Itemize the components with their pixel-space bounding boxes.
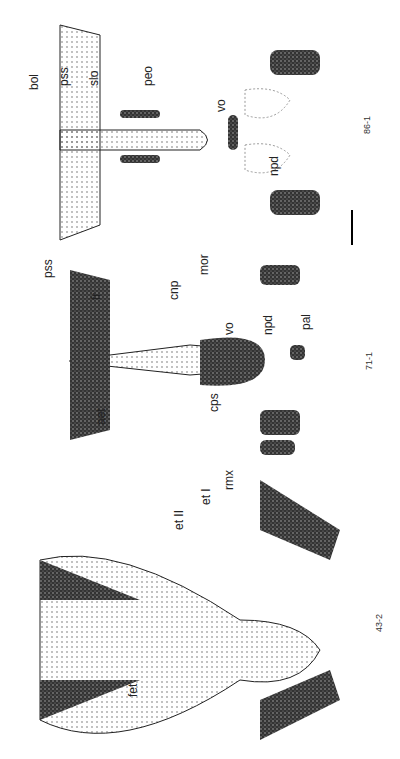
label-cps: cps [207,393,221,412]
label-cnp: cnp [167,280,181,300]
section-43-2: 43-2 [374,614,384,632]
anatomical-figure: bol pss slo peo vo npd 86-1 pss fr cnp m… [0,0,400,759]
section-71-1: 71-1 [364,352,374,370]
label-pal: pal [299,314,313,330]
panel-86-1 [60,25,352,245]
label-et-i: et I [199,488,213,505]
label-bol: bol [27,74,41,90]
label-fr: fr [89,293,103,300]
section-86-1: 86-1 [362,116,372,134]
label-npd: npd [267,156,281,176]
label-rmx: rmx [222,470,236,490]
label-mor: mor [197,254,211,275]
label-fet: fet [126,683,140,697]
panel-43-2 [40,480,340,740]
label-vo: vo [214,99,228,112]
label-slo: slo [87,70,101,86]
label-aet: aet [94,408,108,425]
label-pss: pss [41,259,55,278]
panel-71-1 [70,265,305,455]
label-peo: peo [141,66,155,86]
label-et-ii: et II [172,510,186,530]
label-npd: npd [261,315,275,335]
label-pss: pss [57,67,71,86]
label-vo: vo [222,322,236,335]
